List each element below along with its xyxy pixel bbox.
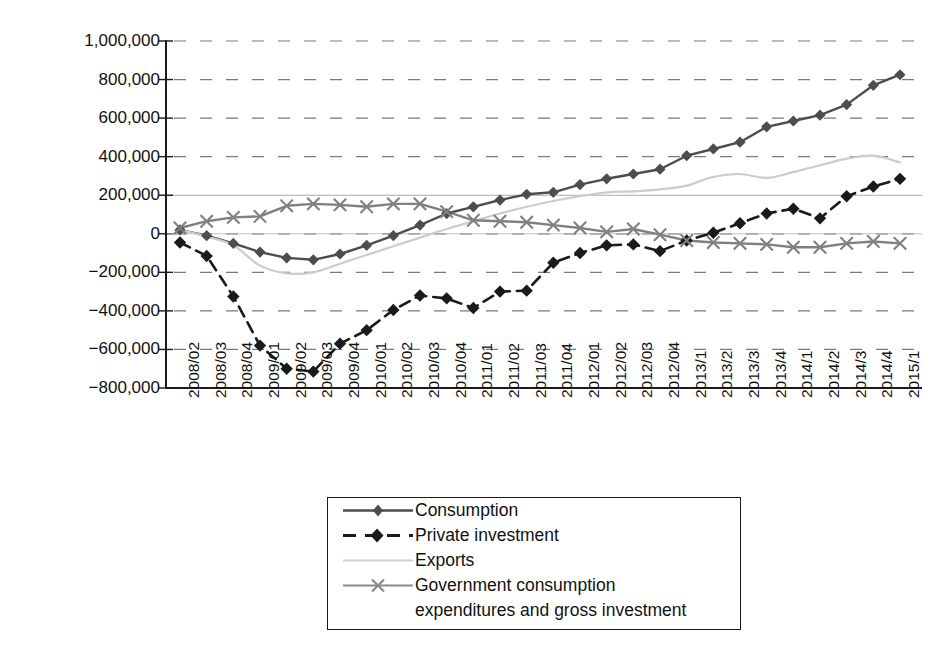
data-point-marker — [548, 187, 559, 198]
data-point-marker — [761, 121, 772, 132]
data-point-marker — [867, 180, 879, 192]
data-point-marker — [654, 164, 665, 175]
legend-label-government-consumption: Government consumption — [415, 573, 615, 598]
data-point-marker — [627, 238, 639, 250]
legend-swatch-exports — [341, 548, 415, 573]
data-point-marker — [414, 289, 426, 301]
legend-swatch-consumption — [341, 498, 415, 523]
y-axis-tick-label: −600,000 — [48, 340, 160, 357]
legend-item-consumption[interactable]: Consumption — [328, 498, 740, 523]
y-axis-tick-labels: 1,000,000800,000600,000400,000200,0000−2… — [48, 0, 160, 420]
data-point-marker — [574, 247, 586, 259]
series-line-consumption — [180, 75, 900, 260]
legend: Consumption Private investment Exports — [327, 497, 741, 630]
y-axis-tick-label: 600,000 — [48, 109, 160, 126]
data-point-marker — [281, 252, 292, 263]
data-point-marker — [201, 230, 212, 241]
data-point-marker — [600, 239, 612, 251]
data-point-marker — [734, 217, 746, 229]
y-axis-tick-label: −200,000 — [48, 263, 160, 280]
data-point-marker — [654, 245, 666, 257]
y-axis-tick-label: 200,000 — [48, 186, 160, 203]
data-point-marker — [414, 220, 425, 231]
data-point-marker — [334, 248, 345, 259]
data-point-marker — [628, 168, 639, 179]
legend-label-exports: Exports — [415, 548, 474, 573]
data-point-marker — [840, 190, 852, 202]
data-point-marker — [521, 189, 532, 200]
legend-label-consumption: Consumption — [415, 498, 518, 523]
data-point-marker — [814, 110, 825, 121]
data-point-marker — [760, 207, 772, 219]
data-point-marker — [894, 173, 906, 185]
y-axis-tick-label: 800,000 — [48, 71, 160, 88]
data-point-marker — [520, 284, 532, 296]
legend-swatch-private-investment — [341, 523, 415, 548]
data-point-marker — [468, 201, 479, 212]
legend-item-government-consumption-line2: expenditures and gross investment — [328, 598, 740, 623]
y-axis-tick-label: −400,000 — [48, 302, 160, 319]
legend-swatch-government-consumption — [341, 573, 415, 598]
legend-label-private-investment: Private investment — [415, 523, 559, 548]
data-point-marker — [494, 285, 506, 297]
data-point-marker — [361, 240, 372, 251]
data-point-marker — [708, 143, 719, 154]
data-point-marker — [681, 150, 692, 161]
data-point-marker — [734, 137, 745, 148]
y-axis-tick-label: 0 — [48, 225, 160, 242]
data-point-marker — [440, 292, 452, 304]
data-point-marker — [334, 337, 346, 349]
data-point-marker — [308, 254, 319, 265]
chart-figure: Million chained (2009) dollars 1,000,000… — [0, 0, 939, 650]
data-point-marker — [601, 173, 612, 184]
legend-label-government-consumption-line2: expenditures and gross investment — [341, 600, 686, 620]
data-point-marker — [574, 179, 585, 190]
legend-item-government-consumption[interactable]: Government consumption — [328, 573, 740, 598]
data-point-marker — [467, 302, 479, 314]
data-point-marker — [254, 246, 265, 257]
y-axis-tick-label: 1,000,000 — [48, 32, 160, 49]
data-point-marker — [894, 69, 905, 80]
y-axis-tick-label: −800,000 — [48, 379, 160, 396]
data-point-marker — [174, 236, 186, 248]
legend-item-private-investment[interactable]: Private investment — [328, 523, 740, 548]
data-point-marker — [388, 230, 399, 241]
data-point-marker — [787, 203, 799, 215]
legend-item-exports[interactable]: Exports — [328, 548, 740, 573]
data-point-marker — [494, 194, 505, 205]
y-axis-tick-label: 400,000 — [48, 148, 160, 165]
data-point-marker — [788, 115, 799, 126]
